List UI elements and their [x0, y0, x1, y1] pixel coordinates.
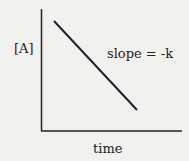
- data-line: [54, 21, 137, 110]
- plot-area: [0, 0, 189, 161]
- y-axis-label: [A]: [14, 42, 34, 55]
- x-axis-label: time: [93, 142, 122, 155]
- slope-annotation: slope = -k: [107, 47, 173, 60]
